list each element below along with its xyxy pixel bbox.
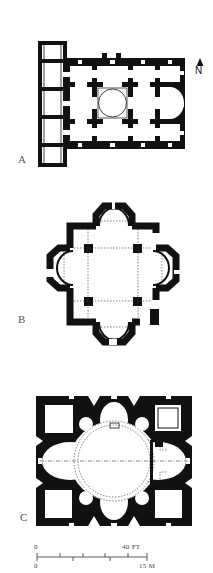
scale-bar bbox=[37, 553, 147, 561]
plan-b bbox=[46, 201, 180, 345]
scale-m-start: 0 bbox=[34, 562, 38, 570]
scale-ft-end: 40 FT bbox=[122, 543, 140, 551]
north-label: N bbox=[195, 65, 202, 76]
scale-m-end: 15 M bbox=[139, 562, 155, 570]
plan-b-label: B bbox=[18, 313, 25, 325]
scale-ft-start: 0 bbox=[34, 543, 38, 551]
plan-c bbox=[36, 396, 192, 526]
plan-a-label: A bbox=[18, 153, 26, 165]
plan-c-label: C bbox=[20, 511, 27, 523]
plan-a bbox=[38, 41, 185, 167]
floor-plans-drawing bbox=[0, 0, 213, 573]
